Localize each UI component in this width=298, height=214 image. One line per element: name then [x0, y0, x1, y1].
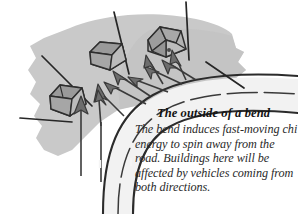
- caption-title: The outside of a bend: [135, 106, 298, 121]
- caption-block: The outside of a bend The bend induces f…: [135, 106, 298, 195]
- figure-container: The outside of a bend The bend induces f…: [0, 0, 298, 214]
- caption-body: The bend induces fast-moving chi energy …: [135, 122, 298, 195]
